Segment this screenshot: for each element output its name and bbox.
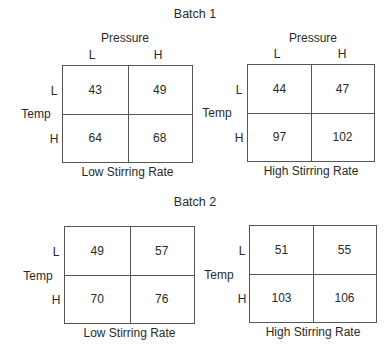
pressure-header: Pressure (100, 31, 150, 45)
stirring-rate-caption: Low Stirring Rate (64, 326, 195, 340)
temp-row-l: L (236, 244, 248, 258)
temp-header: Temp (18, 107, 54, 121)
cell-temp-l-pressure-l: 44 (248, 65, 311, 113)
temp-row-l: L (48, 84, 60, 98)
temp-row-h: H (236, 292, 248, 306)
stirring-rate-caption: High Stirring Rate (247, 164, 375, 178)
cell-temp-l-pressure-h: 55 (313, 226, 376, 274)
temp-header: Temp (198, 106, 236, 120)
pressure-col-h: H (148, 48, 168, 62)
cell-temp-l-pressure-h: 57 (130, 227, 195, 275)
cell-temp-l-pressure-l: 43 (63, 66, 128, 114)
stirring-rate-caption: High Stirring Rate (249, 325, 377, 339)
temp-header: Temp (20, 269, 56, 283)
cell-temp-h-pressure-h: 102 (311, 113, 374, 161)
pressure-col-l: L (267, 47, 287, 61)
cell-temp-h-pressure-l: 97 (248, 113, 311, 161)
pressure-col-l: L (82, 48, 102, 62)
temp-row-l: L (50, 245, 62, 259)
cell-temp-h-pressure-h: 68 (128, 114, 193, 162)
grid: 43 49 64 68 (62, 65, 193, 163)
cell-temp-h-pressure-l: 103 (250, 274, 313, 322)
cell-temp-h-pressure-h: 76 (130, 275, 195, 323)
temp-row-h: H (233, 131, 245, 145)
cell-temp-h-pressure-l: 70 (65, 275, 130, 323)
cell-temp-l-pressure-l: 49 (65, 227, 130, 275)
batch-1-title: Batch 1 (0, 7, 390, 21)
cell-temp-l-pressure-l: 51 (250, 226, 313, 274)
pressure-header: Pressure (283, 31, 343, 45)
stirring-rate-caption: Low Stirring Rate (62, 165, 193, 179)
temp-header: Temp (200, 268, 238, 282)
temp-row-h: H (48, 132, 60, 146)
cell-temp-l-pressure-h: 49 (128, 66, 193, 114)
grid: 49 57 70 76 (64, 226, 195, 324)
cell-temp-h-pressure-h: 106 (313, 274, 376, 322)
pressure-col-h: H (332, 47, 352, 61)
batch-2-title: Batch 2 (0, 195, 390, 209)
temp-row-h: H (50, 293, 62, 307)
temp-row-l: L (233, 83, 245, 97)
cell-temp-h-pressure-l: 64 (63, 114, 128, 162)
cell-temp-l-pressure-h: 47 (311, 65, 374, 113)
grid: 44 47 97 102 (247, 64, 375, 162)
grid: 51 55 103 106 (249, 225, 377, 323)
